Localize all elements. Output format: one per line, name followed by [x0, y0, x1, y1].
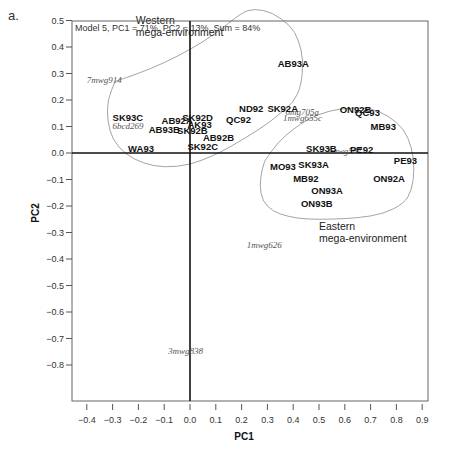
- environment-label: 1mwg626: [247, 240, 283, 250]
- y-tick-label: 0.1: [51, 122, 64, 132]
- x-tick-label: 0.3: [261, 415, 274, 425]
- genotype-label: AB93B: [149, 124, 180, 135]
- genotype-label: ON93B: [301, 198, 333, 209]
- genotype-label: PE92: [350, 144, 373, 155]
- y-tick-label: 0.2: [51, 95, 64, 105]
- genotype-label: ON93A: [311, 185, 343, 196]
- x-tick-label: 0.5: [313, 415, 326, 425]
- genotype-label: QC92: [226, 114, 251, 125]
- y-tick-label: −0.8: [46, 360, 64, 370]
- y-tick-label: −0.7: [46, 334, 64, 344]
- axes: −0.4−0.3−0.2−0.10.00.10.20.30.40.50.60.7…: [46, 0, 428, 425]
- point-labels: 7mwg9146bcd2696mg705a1mwg655c1mwg5871mwg…: [87, 58, 417, 357]
- genotype-label: MO93: [270, 161, 296, 172]
- y-tick-label: −0.6: [46, 307, 64, 317]
- chart-title: Model 5, PC1 = 71%, PC2 = 13%, Sum = 84%: [75, 23, 260, 33]
- x-tick-label: −0.1: [155, 415, 173, 425]
- y-tick-label: 0.3: [51, 69, 64, 79]
- genotype-label: ND92: [239, 103, 263, 114]
- y-tick-label: −0.4: [46, 254, 64, 264]
- x-tick-label: 0.6: [339, 415, 352, 425]
- genotype-label: SK93C: [113, 112, 144, 123]
- x-tick-label: 0.7: [364, 415, 377, 425]
- environment-label: 3mwg838: [167, 346, 204, 356]
- genotype-label: SK92A: [267, 103, 298, 114]
- environment-label: 7mwg914: [87, 75, 123, 85]
- genotype-label: AB93A: [278, 58, 309, 69]
- x-tick-label: 0.2: [235, 415, 248, 425]
- x-tick-label: −0.2: [130, 415, 148, 425]
- genotype-label: MB93: [371, 121, 396, 132]
- genotype-label: ON92A: [373, 173, 405, 184]
- y-tick-label: −0.5: [46, 281, 64, 291]
- y-axis-title: PC2: [30, 203, 41, 223]
- x-tick-label: 0.4: [287, 415, 300, 425]
- x-tick-label: −0.4: [78, 415, 96, 425]
- biplot-chart: Westernmega-environmentEasternmega-envir…: [0, 0, 449, 458]
- environment-label: 1mwg655c: [283, 113, 322, 123]
- y-tick-label: 0.0: [51, 148, 64, 158]
- y-tick-label: −0.3: [46, 228, 64, 238]
- x-tick-label: 0.1: [210, 415, 223, 425]
- x-tick-label: 0.8: [390, 415, 403, 425]
- x-tick-label: 0.9: [416, 415, 429, 425]
- genotype-label: SK93B: [306, 143, 337, 154]
- y-tick-label: 0.5: [51, 16, 64, 26]
- x-axis-title: PC1: [234, 431, 254, 442]
- y-tick-label: −0.1: [46, 175, 64, 185]
- x-tick-label: 0.0: [184, 415, 197, 425]
- y-tick-label: −0.2: [46, 201, 64, 211]
- genotype-label: SK92C: [187, 141, 218, 152]
- y-tick-label: 0.4: [51, 42, 64, 52]
- genotype-label: SK93A: [298, 159, 329, 170]
- x-tick-label: −0.3: [104, 415, 122, 425]
- genotype-label: MB92: [293, 173, 318, 184]
- genotype-label: WA93: [128, 143, 154, 154]
- genotype-label: PE93: [394, 155, 417, 166]
- region-label: mega-environment: [319, 232, 407, 244]
- genotype-label: QC93: [355, 107, 380, 118]
- region-label: Eastern: [319, 220, 355, 232]
